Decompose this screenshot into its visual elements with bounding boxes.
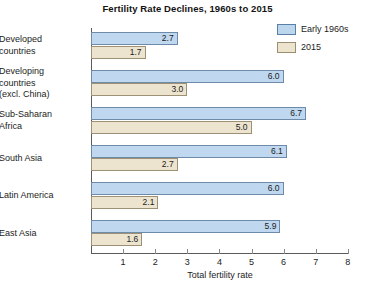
- category-label-line: Sub-Saharan: [0, 109, 81, 121]
- x-axis-tick-label-3: 3: [177, 257, 197, 267]
- bar-value-label: 5.0: [236, 122, 248, 133]
- bar-value-label: 6.1: [271, 146, 283, 157]
- chart-title: Fertility Rate Declines, 1960s to 2015: [0, 3, 375, 14]
- category-label-line: Developing: [0, 66, 81, 78]
- x-axis-title: Total fertility rate: [91, 270, 349, 280]
- category-label: Latin America: [0, 190, 81, 202]
- bar-value-label: 5.9: [265, 221, 277, 232]
- fertility-rate-bar-chart: Fertility Rate Declines, 1960s to 2015 E…: [0, 0, 375, 286]
- bar-value-label: 2.7: [162, 33, 174, 44]
- bar: 3.0: [91, 83, 187, 96]
- x-axis-tick-label-5: 5: [242, 257, 262, 267]
- bar: 6.0: [91, 70, 284, 83]
- x-axis-tick-label-2: 2: [145, 257, 165, 267]
- category-label-line: Developed: [0, 34, 81, 46]
- bar: 2.1: [91, 196, 158, 209]
- bar-value-label: 3.0: [171, 84, 183, 95]
- plot-area: 123456782.71.76.03.06.75.06.12.76.02.15.…: [91, 28, 353, 253]
- bar: 6.7: [91, 107, 306, 120]
- bar-value-label: 1.7: [130, 47, 142, 58]
- x-axis-tick-5: [252, 249, 253, 254]
- bar: 5.9: [91, 220, 280, 233]
- bar-value-label: 6.0: [268, 183, 280, 194]
- x-axis-tick-label-7: 7: [306, 257, 326, 267]
- category-label: East Asia: [0, 228, 81, 240]
- category-label: Sub-SaharanAfrica: [0, 109, 81, 132]
- bar: 2.7: [91, 32, 178, 45]
- x-axis-tick-6: [284, 249, 285, 254]
- category-label-line: countries: [0, 78, 81, 90]
- bar: 1.7: [91, 46, 146, 59]
- x-axis-tick-1: [123, 249, 124, 254]
- category-label-line: countries: [0, 46, 81, 58]
- x-axis-tick-4: [219, 249, 220, 254]
- bar: 5.0: [91, 121, 252, 134]
- bar: 2.7: [91, 158, 178, 171]
- category-label-line: Africa: [0, 121, 81, 133]
- category-label-line: South Asia: [0, 153, 81, 165]
- x-axis-tick-label-8: 8: [338, 257, 358, 267]
- category-label: Developingcountries(excl. China): [0, 66, 81, 101]
- bar: 1.6: [91, 233, 142, 246]
- x-axis-tick-8: [348, 249, 349, 254]
- bar-value-label: 2.1: [143, 197, 155, 208]
- x-axis-tick-label-4: 4: [209, 257, 229, 267]
- x-axis-tick-2: [155, 249, 156, 254]
- category-label: South Asia: [0, 153, 81, 165]
- category-label-line: (excl. China): [0, 89, 81, 101]
- category-label: Developedcountries: [0, 34, 81, 57]
- x-axis-tick-7: [316, 249, 317, 254]
- x-axis-tick-3: [187, 249, 188, 254]
- x-axis-tick-label-1: 1: [113, 257, 133, 267]
- bar-value-label: 6.7: [290, 108, 302, 119]
- bar-value-label: 6.0: [268, 71, 280, 82]
- x-axis-tick-label-6: 6: [274, 257, 294, 267]
- bar: 6.0: [91, 182, 284, 195]
- bar: 6.1: [91, 145, 287, 158]
- category-axis-labels: DevelopedcountriesDevelopingcountries(ex…: [0, 28, 86, 253]
- category-label-line: East Asia: [0, 228, 81, 240]
- category-label-line: Latin America: [0, 190, 81, 202]
- bar-value-label: 2.7: [162, 159, 174, 170]
- bar-value-label: 1.6: [127, 234, 139, 245]
